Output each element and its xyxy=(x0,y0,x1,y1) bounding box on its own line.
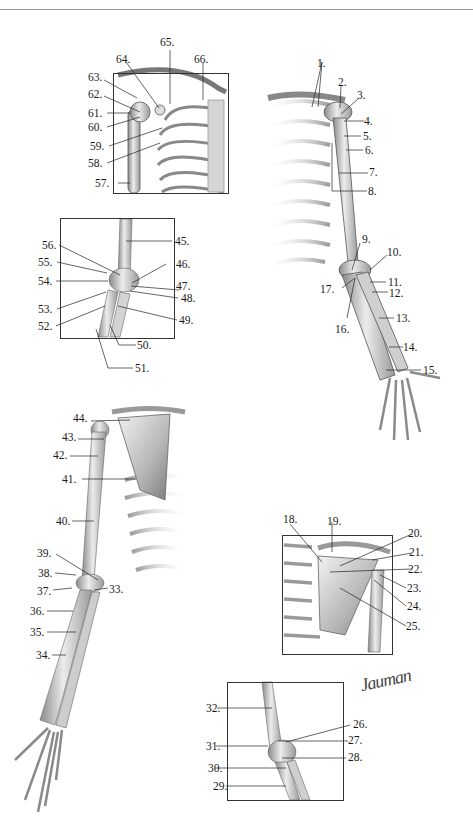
frame-elbow-posterior xyxy=(227,682,344,801)
label-66: 66. xyxy=(194,53,208,65)
label-44: 44. xyxy=(73,412,87,424)
frame-elbow-anterior xyxy=(60,218,175,339)
label-40: 40. xyxy=(56,515,70,527)
label-26: 26. xyxy=(353,718,367,730)
label-29: 29. xyxy=(213,780,227,792)
label-32: 32. xyxy=(206,702,220,714)
label-25: 25. xyxy=(406,620,420,632)
label-43: 43. xyxy=(62,431,76,443)
label-52: 52. xyxy=(38,320,52,332)
label-22: 22. xyxy=(408,563,422,575)
label-24: 24. xyxy=(407,600,421,612)
label-9: 9. xyxy=(362,233,371,245)
label-57: 57. xyxy=(95,177,109,189)
label-53: 53. xyxy=(38,303,52,315)
label-55: 55. xyxy=(38,256,52,268)
label-7: 7. xyxy=(369,166,378,178)
label-64: 64. xyxy=(116,53,130,65)
label-54: 54. xyxy=(38,275,52,287)
label-61: 61. xyxy=(88,107,102,119)
label-20: 20. xyxy=(408,527,422,539)
label-59: 59. xyxy=(90,140,104,152)
label-38: 38. xyxy=(38,567,52,579)
label-12: 12. xyxy=(389,287,403,299)
label-3: 3. xyxy=(357,89,366,101)
label-35: 35. xyxy=(30,626,44,638)
label-60: 60. xyxy=(88,121,102,133)
label-31: 31. xyxy=(206,740,220,752)
frame-scapula-posterior xyxy=(282,535,393,655)
label-45: 45. xyxy=(175,235,189,247)
label-33: 33. xyxy=(109,583,123,595)
label-51: 51. xyxy=(135,362,149,374)
label-37: 37. xyxy=(37,585,51,597)
label-62: 62. xyxy=(88,88,102,100)
label-58: 58. xyxy=(88,157,102,169)
label-8: 8. xyxy=(368,185,377,197)
label-23: 23. xyxy=(407,582,421,594)
label-6: 6. xyxy=(365,144,374,156)
label-63: 63. xyxy=(88,71,102,83)
label-27: 27. xyxy=(348,734,362,746)
label-50: 50. xyxy=(137,339,151,351)
label-46: 46. xyxy=(176,258,190,270)
label-17: 17. xyxy=(320,283,334,295)
label-2: 2. xyxy=(338,76,347,88)
label-15: 15. xyxy=(423,364,437,376)
label-56: 56. xyxy=(42,239,56,251)
label-18: 18. xyxy=(283,513,297,525)
label-48: 48. xyxy=(181,292,195,304)
label-34: 34. xyxy=(36,649,50,661)
label-5: 5. xyxy=(363,130,372,142)
label-4: 4. xyxy=(364,115,373,127)
label-42: 42. xyxy=(53,449,67,461)
label-41: 41. xyxy=(62,473,76,485)
label-30: 30. xyxy=(208,762,222,774)
label-65: 65. xyxy=(160,36,174,48)
label-49: 49. xyxy=(179,314,193,326)
label-16: 16. xyxy=(335,323,349,335)
label-47: 47. xyxy=(176,280,190,292)
label-36: 36. xyxy=(30,605,44,617)
label-10: 10. xyxy=(387,246,401,258)
label-13: 13. xyxy=(396,312,410,324)
label-39: 39. xyxy=(37,547,51,559)
label-21: 21. xyxy=(409,546,423,558)
label-1: 1. xyxy=(317,57,326,69)
label-14: 14. xyxy=(403,341,417,353)
frame-shoulder-anterior xyxy=(113,73,229,194)
label-19: 19. xyxy=(327,515,341,527)
label-28: 28. xyxy=(348,751,362,763)
